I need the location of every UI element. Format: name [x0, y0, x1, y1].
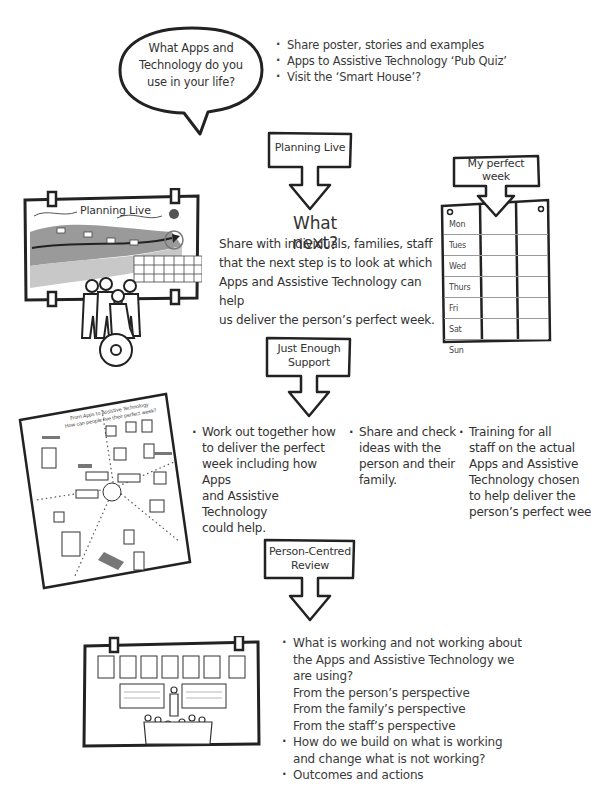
planning-live-illustration-title: Planning Live	[80, 204, 151, 217]
speech-bubble-text: What Apps and Technology do you use in y…	[126, 40, 256, 91]
review-item: How do we build on what is working and c…	[282, 734, 582, 767]
support-column-1: · Work out together how to deliver the p…	[202, 424, 347, 536]
review-item: What is working and not working about th…	[282, 635, 582, 685]
week-day-row: Sun	[444, 340, 548, 361]
week-day-row: Thurs	[444, 277, 548, 298]
intro-bullet: Visit the ‘Smart House’?	[276, 69, 576, 85]
support-column-3: · Training for all staff on the actual A…	[469, 424, 591, 520]
perfect-week-chart: My perfect week Mon Tues Wed Thurs Fri S…	[440, 154, 554, 346]
step-label: Just Enough Support	[268, 342, 350, 370]
what-next-description: Share with individuals, families, staff …	[219, 235, 449, 330]
week-day-row: Fri	[444, 298, 548, 319]
review-item: Outcomes and actions	[282, 767, 582, 784]
review-perspective: From the family’s perspective	[282, 701, 582, 718]
week-day-list: Mon Tues Wed Thurs Fri Sat Sun	[444, 214, 548, 361]
step-just-enough-support: Just Enough Support	[264, 336, 354, 420]
apps-poster-illustration: From Apps to Assistive Technology How ca…	[14, 392, 194, 592]
week-day-row: Wed	[444, 256, 548, 277]
step-label: Planning Live	[270, 141, 350, 155]
planning-live-illustration: Planning Live	[22, 188, 202, 378]
review-question-list: What is working and not working about th…	[282, 635, 582, 784]
step-label: Person-Centred Review	[266, 545, 354, 573]
speech-bubble: What Apps and Technology do you use in y…	[112, 22, 272, 142]
step-planning-live: Planning Live	[266, 131, 354, 213]
review-perspective: From the staff’s perspective	[282, 718, 582, 735]
bullet-dot: ·	[349, 424, 353, 440]
intro-bullet: Apps to Assistive Technology ‘Pub Quiz’	[276, 53, 576, 69]
review-meeting-illustration	[82, 636, 262, 748]
review-perspective: From the person’s perspective	[282, 685, 582, 702]
support-column-2: · Share and check ideas with the person …	[359, 424, 459, 488]
bullet-dot: ·	[459, 424, 463, 440]
step-person-centred-review: Person-Centred Review	[262, 538, 358, 624]
bullet-dot: ·	[192, 424, 196, 440]
intro-bullet-list: Share poster, stories and examples Apps …	[276, 37, 576, 85]
perfect-week-title: My perfect week	[454, 157, 538, 183]
intro-bullet: Share poster, stories and examples	[276, 37, 576, 53]
week-day-row: Sat	[444, 319, 548, 340]
week-day-row: Mon	[444, 214, 548, 235]
review-poster-icon	[82, 636, 262, 748]
week-day-row: Tues	[444, 235, 548, 256]
